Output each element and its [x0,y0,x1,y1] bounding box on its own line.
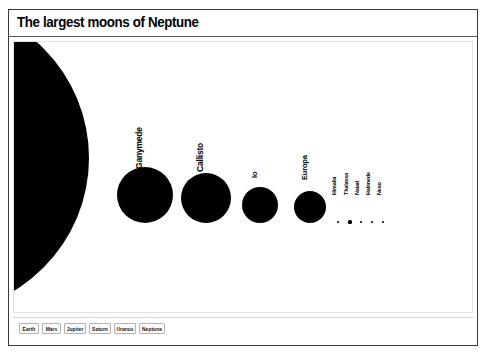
body-label-himalia: Himalia [331,177,337,195]
body-circle-halimede[interactable] [371,221,373,223]
body-circle-callisto[interactable] [181,173,231,223]
body-label-neso: Neso [376,182,382,195]
tab-uranus[interactable]: Uranus [114,323,136,334]
body-label-thalassa: Thalassa [343,173,349,195]
body-label-europa: Europa [300,155,309,180]
body-circle-ganymede[interactable] [117,167,173,223]
body-label-callisto: Callisto [195,143,205,172]
tab-mars[interactable]: Mars [42,323,61,334]
chart-plot-area: GanymedeCallistoIoEuropaHimaliaThalassaN… [13,41,473,313]
body-circle-neptune[interactable] [13,41,89,313]
body-circle-neso[interactable] [382,221,384,223]
body-circle-europa[interactable] [294,191,326,223]
body-label-halimede: Halimede [365,172,371,195]
body-circle-thalassa[interactable] [348,220,351,223]
body-label-ganymede: Ganymede [134,127,144,169]
body-label-naiad: Naiad [354,181,360,195]
tab-earth[interactable]: Earth [19,323,39,334]
tab-jupiter[interactable]: Jupiter [64,323,86,334]
tab-saturn[interactable]: Saturn [89,323,111,334]
body-label-io: Io [250,172,259,178]
tab-neptune[interactable]: Neptune [139,323,165,334]
page-title: The largest moons of Neptune [17,14,199,30]
chart-window: The largest moons of Neptune GanymedeCal… [8,9,478,346]
planet-tab-strip: EarthMarsJupiterSaturnUranusNeptune [13,317,473,341]
window-title-bar: The largest moons of Neptune [9,10,477,37]
body-circle-himalia[interactable] [337,221,339,223]
body-circle-naiad[interactable] [360,221,363,224]
body-circle-io[interactable] [242,187,278,223]
